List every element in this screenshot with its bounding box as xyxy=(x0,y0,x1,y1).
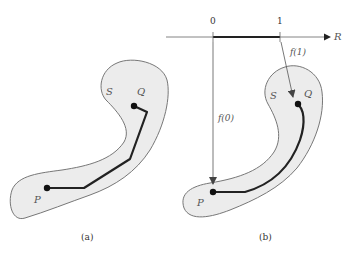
tick-label-1: 1 xyxy=(277,16,283,26)
axis-label-r: R xyxy=(333,31,342,42)
caption-b: (b) xyxy=(259,232,272,242)
label-p-a: P xyxy=(33,194,41,205)
panel-b: 0 1 R f(0) f(1) S Q P (b) xyxy=(166,16,342,242)
label-q-b: Q xyxy=(304,88,312,99)
label-f0: f(0) xyxy=(217,113,235,123)
label-p-b: P xyxy=(196,197,204,208)
label-f1: f(1) xyxy=(289,47,307,57)
panel-a: S Q P (a) xyxy=(10,60,168,242)
label-s-b: S xyxy=(270,90,277,101)
point-p-a xyxy=(44,185,50,191)
point-q-a xyxy=(131,103,137,109)
tick-label-0: 0 xyxy=(210,16,216,26)
caption-a: (a) xyxy=(81,232,93,242)
point-p-b xyxy=(210,189,216,195)
region-s-b xyxy=(183,66,323,217)
label-s-a: S xyxy=(106,86,113,97)
path-connected-diagram: S Q P (a) 0 1 R f(0) f(1) S Q P (b) xyxy=(0,0,355,255)
point-q-b xyxy=(295,101,301,107)
label-q-a: Q xyxy=(137,86,145,97)
axis-arrowhead-icon xyxy=(324,34,331,41)
